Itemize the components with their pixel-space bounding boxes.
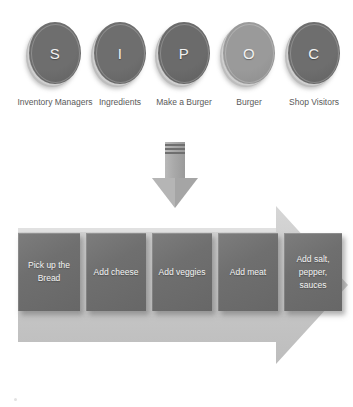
sipoc-node-row: S Inventory Managers I Ingredients P — [0, 22, 350, 142]
sipoc-node-process[interactable]: P Make a Burger — [151, 22, 217, 84]
coin-p[interactable]: P — [158, 22, 210, 84]
coin-letter: S — [50, 46, 61, 61]
process-step-label: Add veggies — [156, 266, 209, 279]
sipoc-node-customer[interactable]: C Shop Visitors — [281, 22, 347, 84]
sipoc-node-output[interactable]: O Burger — [216, 22, 282, 84]
coin-letter: I — [118, 46, 123, 61]
sipoc-node-input[interactable]: I Ingredients — [87, 22, 153, 84]
coin-face: S — [29, 22, 81, 84]
process-step-label: Pick up the Bread — [25, 259, 73, 285]
coin-c[interactable]: C — [288, 22, 340, 84]
coin-letter: O — [243, 46, 255, 61]
process-step-box[interactable]: Add salt, pepper, sauces — [284, 233, 342, 311]
process-step-list: Pick up the Bread Add cheese Add veggies… — [18, 233, 348, 328]
process-step-box[interactable]: Add cheese — [86, 233, 146, 311]
coin-s[interactable]: S — [29, 22, 81, 84]
coin-letter: P — [179, 46, 190, 61]
arrow-stripe — [165, 148, 185, 150]
process-step-box[interactable]: Pick up the Bread — [18, 233, 80, 311]
process-step-label: Add cheese — [91, 266, 142, 279]
process-step-label: Add meat — [227, 266, 269, 279]
sipoc-label-customer: Shop Visitors — [275, 96, 353, 108]
process-step-box[interactable]: Add meat — [218, 233, 278, 311]
coin-face: P — [158, 22, 210, 84]
process-step-box[interactable]: Add veggies — [152, 233, 212, 311]
page-speck — [14, 398, 17, 401]
coin-i[interactable]: I — [94, 22, 146, 84]
coin-face: C — [288, 22, 340, 84]
coin-letter: C — [308, 46, 319, 61]
coin-face: I — [94, 22, 146, 84]
banner-highlight — [18, 228, 276, 232]
process-step-label: Add salt, pepper, sauces — [293, 253, 332, 292]
arrow-stripe — [165, 152, 185, 154]
down-arrow-icon — [152, 142, 198, 208]
coin-face: O — [223, 22, 275, 84]
coin-o[interactable]: O — [223, 22, 275, 84]
arrow-stripe — [165, 144, 185, 146]
sipoc-node-supplier[interactable]: S Inventory Managers — [22, 22, 88, 84]
